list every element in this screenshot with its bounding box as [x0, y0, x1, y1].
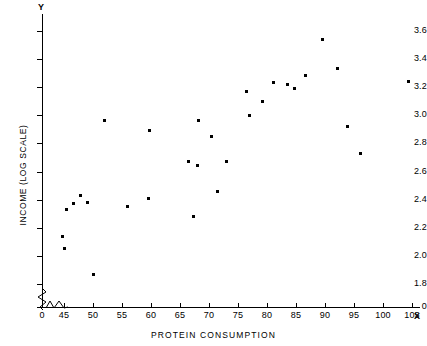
data-point: [225, 160, 228, 163]
y-tick-label: 2.4: [393, 195, 427, 204]
x-tick-label: 70: [194, 311, 224, 320]
data-point: [197, 119, 200, 122]
y-tick-mark: [37, 228, 42, 229]
y-axis-title: INCOME (LOG SCALE): [18, 105, 28, 245]
y-tick-mark: [37, 87, 42, 88]
data-point: [79, 194, 82, 197]
x-tick-label: 75: [223, 311, 253, 320]
data-point: [61, 235, 64, 238]
data-point: [126, 205, 129, 208]
x-tick-label: 50: [78, 311, 108, 320]
data-point: [336, 67, 339, 70]
y-tick-label: 3.0: [393, 110, 427, 119]
x-tick-mark: [383, 303, 384, 308]
data-point: [346, 125, 349, 128]
data-point: [65, 208, 68, 211]
y-tick-label: 3.6: [393, 26, 427, 35]
x-tick-label: 65: [165, 311, 195, 320]
data-point: [245, 90, 248, 93]
data-point: [86, 201, 89, 204]
x-axis-title: PROTEIN CONSUMPTION: [0, 330, 427, 340]
data-point: [192, 215, 195, 218]
data-point: [272, 81, 275, 84]
y-tick-mark: [37, 31, 42, 32]
y-tick-mark: [37, 59, 42, 60]
y-tick-label: 1.8: [393, 279, 427, 288]
y-tick-mark: [37, 115, 42, 116]
data-point: [187, 160, 190, 163]
x-tick-mark: [296, 303, 297, 308]
data-point: [103, 119, 106, 122]
x-tick-mark: [209, 303, 210, 308]
x-tick-mark: [325, 303, 326, 308]
x-axis-line: [42, 307, 420, 308]
x-tick-mark: [42, 303, 43, 308]
x-tick-label: 100: [368, 311, 398, 320]
data-point: [210, 135, 213, 138]
data-point: [304, 74, 307, 77]
y-tick-mark: [37, 172, 42, 173]
x-tick-mark: [354, 303, 355, 308]
x-tick-label: 55: [107, 311, 137, 320]
data-point: [147, 197, 150, 200]
x-tick-label: 105: [397, 311, 427, 320]
x-tick-mark: [412, 303, 413, 308]
x-tick-mark: [267, 303, 268, 308]
data-point: [286, 83, 289, 86]
x-tick-mark: [180, 303, 181, 308]
data-point: [148, 129, 151, 132]
y-axis-symbol: Y: [38, 2, 44, 12]
y-tick-label: 3.2: [393, 82, 427, 91]
x-tick-mark: [122, 303, 123, 308]
data-point: [321, 38, 324, 41]
x-tick-mark: [93, 303, 94, 308]
x-tick-mark: [151, 303, 152, 308]
y-tick-label: 2.6: [393, 167, 427, 176]
y-axis-line: [42, 14, 43, 308]
data-point: [196, 164, 199, 167]
x-tick-mark: [64, 303, 65, 308]
data-point: [216, 190, 219, 193]
y-tick-mark: [37, 256, 42, 257]
data-point: [261, 100, 264, 103]
x-tick-label: 60: [136, 311, 166, 320]
data-point: [92, 273, 95, 276]
x-tick-label: 85: [281, 311, 311, 320]
data-point: [72, 202, 75, 205]
data-point: [63, 247, 66, 250]
y-tick-mark: [37, 200, 42, 201]
x-tick-label: 90: [310, 311, 340, 320]
y-tick-mark: [37, 143, 42, 144]
y-tick-label: 2.0: [393, 251, 427, 260]
x-tick-label: 80: [252, 311, 282, 320]
data-point: [359, 152, 362, 155]
y-tick-label: 3.4: [393, 54, 427, 63]
y-tick-label: 2.2: [393, 223, 427, 232]
scatter-plot-figure: Y X INCOME (LOG SCALE) PROTEIN CONSUMPTI…: [0, 0, 427, 346]
y-tick-mark: [37, 284, 42, 285]
data-point: [407, 80, 410, 83]
data-point: [248, 114, 251, 117]
x-tick-label: 45: [49, 311, 79, 320]
y-tick-label: 2.8: [393, 138, 427, 147]
x-tick-label: 95: [339, 311, 369, 320]
data-point: [293, 87, 296, 90]
x-tick-mark: [238, 303, 239, 308]
